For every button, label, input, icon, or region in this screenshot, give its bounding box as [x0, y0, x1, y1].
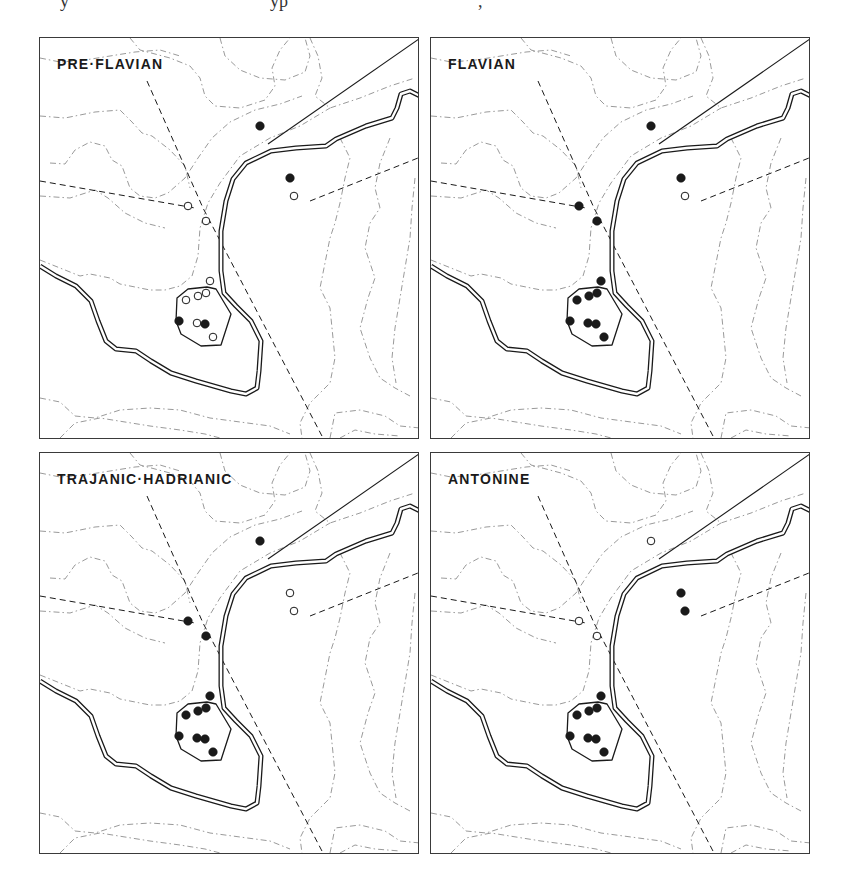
site-filled-icon — [575, 202, 584, 211]
site-filled-icon — [593, 217, 602, 226]
site-open-icon — [202, 217, 210, 225]
contour-line — [431, 108, 721, 290]
river-outer — [40, 506, 418, 809]
site-filled-icon — [584, 734, 593, 743]
site-filled-icon — [175, 317, 184, 326]
contour-line — [392, 178, 415, 383]
contour-line — [431, 605, 556, 643]
site-filled-icon — [193, 734, 202, 743]
site-filled-icon — [681, 607, 690, 616]
site-open-icon — [209, 333, 217, 341]
contour-line — [611, 453, 701, 495]
road-north-south — [147, 496, 323, 853]
base-map — [40, 38, 418, 438]
contour-line — [783, 593, 806, 798]
contour-line — [611, 38, 701, 80]
contour-line — [431, 813, 681, 849]
river-outer — [431, 506, 809, 809]
river-inner — [40, 506, 418, 809]
site-filled-icon — [201, 320, 210, 329]
site-filled-icon — [286, 174, 295, 183]
site-filled-icon — [175, 732, 184, 741]
site-filled-icon — [597, 692, 606, 701]
site-filled-icon — [256, 537, 265, 546]
contour-line — [431, 398, 681, 434]
site-open-icon — [575, 617, 583, 625]
base-map — [431, 38, 809, 438]
contour-line — [731, 845, 791, 853]
site-filled-icon — [593, 704, 602, 713]
base-map — [431, 453, 809, 853]
road-west — [40, 596, 195, 623]
site-open-icon — [194, 292, 202, 300]
road-west — [431, 596, 586, 623]
road-east — [701, 573, 809, 616]
river-inner — [40, 91, 418, 394]
site-filled-icon — [597, 277, 606, 286]
road-west — [40, 181, 195, 208]
site-open-icon — [647, 537, 655, 545]
contour-line — [360, 553, 410, 811]
cropped-text-fragment: , — [478, 0, 483, 12]
cropped-text-fragment: yp — [270, 0, 288, 12]
road-west — [431, 181, 586, 208]
road-north-south — [147, 81, 323, 438]
contour-line — [751, 138, 801, 396]
site-filled-icon — [184, 617, 193, 626]
site-filled-icon — [585, 292, 594, 301]
solid-boundary-line — [268, 39, 418, 144]
site-filled-icon — [201, 735, 210, 744]
solid-boundary-line — [268, 454, 418, 559]
site-open-icon — [206, 277, 214, 285]
site-open-icon — [184, 202, 192, 210]
contour-line — [40, 525, 190, 603]
contour-line — [521, 453, 681, 523]
site-open-icon — [182, 296, 190, 304]
contour-line — [360, 138, 410, 396]
contour-line — [40, 110, 190, 188]
river-outer — [431, 91, 809, 394]
site-filled-icon — [573, 296, 582, 305]
map-panel-flavian: FLAVIAN — [430, 37, 810, 439]
contour-line — [431, 525, 581, 603]
road-north-south — [538, 81, 714, 438]
site-open-icon — [202, 289, 210, 297]
panel-title: TRAJANIC·HADRIANIC — [57, 471, 233, 487]
contour-line — [60, 418, 220, 438]
site-filled-icon — [202, 632, 211, 641]
base-map — [40, 453, 418, 853]
solid-boundary-line — [659, 39, 809, 144]
site-filled-icon — [677, 174, 686, 183]
map-panel-antonine: ANTONINE — [430, 452, 810, 854]
contour-line — [731, 430, 791, 438]
contour-line — [431, 523, 721, 705]
contour-line — [691, 138, 741, 438]
river-inner — [431, 506, 809, 809]
cropped-text-fragment: y — [60, 0, 69, 12]
panel-title: ANTONINE — [448, 471, 530, 487]
map-panel-pre-flavian: PRE·FLAVIAN — [39, 37, 419, 439]
site-filled-icon — [584, 319, 593, 328]
contour-line — [130, 453, 290, 523]
site-open-icon — [286, 589, 294, 597]
site-open-icon — [290, 192, 298, 200]
contour-line — [130, 38, 290, 108]
contour-line — [220, 453, 310, 495]
contour-line — [220, 38, 310, 80]
contour-line — [340, 845, 400, 853]
contour-line — [340, 430, 400, 438]
contour-line — [521, 38, 681, 108]
site-filled-icon — [256, 122, 265, 131]
contour-line — [392, 593, 415, 798]
contour-line — [60, 833, 220, 853]
river-outer — [40, 91, 418, 394]
site-filled-icon — [600, 333, 609, 342]
contour-line — [451, 833, 611, 853]
contour-line — [40, 108, 330, 290]
contour-line — [40, 605, 165, 643]
site-open-icon — [681, 192, 689, 200]
road-north-south — [538, 496, 714, 853]
map-panel-trajanic-hadrianic: TRAJANIC·HADRIANIC — [39, 452, 419, 854]
contour-line — [751, 553, 801, 811]
site-filled-icon — [677, 589, 686, 598]
